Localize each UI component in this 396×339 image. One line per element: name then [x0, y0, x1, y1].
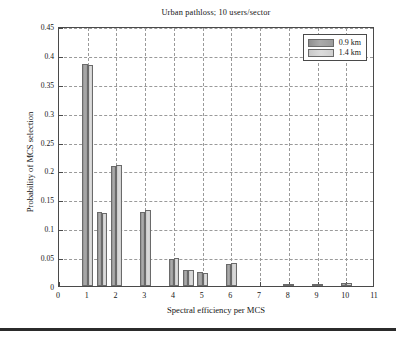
- bar: [188, 270, 193, 286]
- x-axis-tick-label: 3: [132, 291, 156, 300]
- y-axis-tick: [59, 57, 63, 58]
- gridline-vertical: [231, 28, 232, 286]
- bar: [346, 283, 351, 286]
- y-axis-tick-label: 0.1: [10, 225, 54, 234]
- gridline-horizontal: [59, 28, 373, 29]
- gridline-vertical: [289, 28, 290, 286]
- y-axis-tick: [59, 115, 63, 116]
- gridline-horizontal: [59, 86, 373, 87]
- legend-swatch-icon-0: [308, 39, 334, 47]
- figure-container: Urban pathloss; 10 users/sector Probabil…: [0, 0, 396, 320]
- bar: [231, 263, 236, 286]
- gridline-vertical: [203, 28, 204, 286]
- x-axis-tick: [260, 282, 261, 286]
- y-axis-tick-labels: 00.050.10.150.20.250.30.350.40.45: [8, 27, 54, 287]
- chart-title: Urban pathloss; 10 users/sector: [58, 8, 374, 17]
- gridline-horizontal: [59, 115, 373, 116]
- x-axis-tick-labels: 01234567891011: [58, 291, 374, 305]
- y-axis-tick: [59, 230, 63, 231]
- x-axis-tick-label: 6: [218, 291, 242, 300]
- gridline-vertical: [174, 28, 175, 286]
- y-axis-tick: [59, 28, 63, 29]
- gridline-horizontal: [59, 172, 373, 173]
- gridline-vertical: [260, 28, 261, 286]
- y-axis-tick: [59, 201, 63, 202]
- y-axis-tick-label: 0.45: [10, 23, 54, 32]
- legend: 0.9 km 1.4 km: [303, 34, 367, 61]
- gridline-horizontal: [59, 144, 373, 145]
- x-axis-tick-label: 4: [161, 291, 185, 300]
- bar: [174, 258, 179, 286]
- y-axis-tick: [59, 172, 63, 173]
- x-axis-tick-label: 9: [305, 291, 329, 300]
- gridline-vertical: [346, 28, 347, 286]
- legend-label-1: 1.4 km: [339, 48, 361, 57]
- x-axis-tick-label: 1: [75, 291, 99, 300]
- y-axis-tick-label: 0.35: [10, 80, 54, 89]
- x-axis-tick-label: 2: [103, 291, 127, 300]
- gridline-vertical: [318, 28, 319, 286]
- x-axis-tick-label: 7: [247, 291, 271, 300]
- bar: [116, 165, 121, 286]
- x-axis-title: Spectral efficiency per MCS: [58, 305, 374, 315]
- legend-item-1[interactable]: 1.4 km: [308, 48, 361, 57]
- y-axis-tick: [59, 144, 63, 145]
- bar: [318, 284, 323, 286]
- bar: [289, 284, 294, 286]
- y-axis-tick: [59, 86, 63, 87]
- y-axis-tick-label: 0.15: [10, 196, 54, 205]
- x-axis-tick-label: 10: [333, 291, 357, 300]
- legend-label-0: 0.9 km: [339, 38, 361, 47]
- y-axis-tick-label: 0.3: [10, 109, 54, 118]
- plot-area: 0.9 km 1.4 km: [58, 27, 374, 287]
- bottom-divider: [0, 328, 396, 331]
- bar: [203, 273, 208, 286]
- x-axis-tick-label: 11: [362, 291, 386, 300]
- y-axis-tick-label: 0.4: [10, 51, 54, 60]
- x-axis-tick-label: 8: [276, 291, 300, 300]
- y-axis-tick-label: 0.2: [10, 167, 54, 176]
- legend-swatch-icon-1: [308, 49, 334, 57]
- x-axis-tick-label: 0: [46, 291, 70, 300]
- x-axis-tick-label: 5: [190, 291, 214, 300]
- bar: [102, 213, 107, 286]
- legend-item-0[interactable]: 0.9 km: [308, 38, 361, 47]
- x-axis-tick: [59, 282, 60, 286]
- gridline-horizontal: [59, 201, 373, 202]
- bar: [145, 210, 150, 286]
- y-axis-tick: [59, 259, 63, 260]
- y-axis-tick-label: 0.05: [10, 254, 54, 263]
- bar: [88, 65, 93, 286]
- y-axis-tick-label: 0.25: [10, 138, 54, 147]
